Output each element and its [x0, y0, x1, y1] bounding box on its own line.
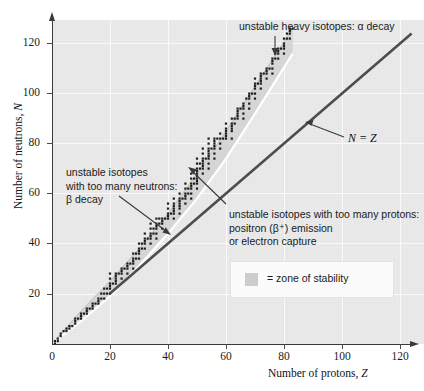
- x-ticklabel-120: 120: [380, 350, 420, 362]
- x-axis-title-symbol: Z: [361, 367, 367, 379]
- legend-swatch-zone-of-stability: [245, 273, 258, 286]
- x-tick-80: [284, 344, 285, 349]
- y-axis-title: Number of neutrons, N: [12, 76, 24, 236]
- y-tick-40: [47, 243, 52, 244]
- y-tick-100: [47, 93, 52, 94]
- y-ticklabel-40: 40: [0, 236, 40, 248]
- annotation-beta-line1: unstable isotopes: [66, 166, 177, 180]
- y-axis-title-symbol: N: [12, 103, 24, 111]
- annotation-beta-line2: with too many neutrons:: [66, 180, 177, 194]
- figure-root: 120 100 80 60 40 20 0 20 40 60 80 100 12…: [0, 0, 424, 391]
- x-tick-120: [400, 344, 401, 349]
- annotation-beta-line3: β decay: [66, 193, 177, 207]
- annotation-proton-line3: or electron capture: [229, 235, 419, 249]
- annotation-beta-decay: unstable isotopes with too many neutrons…: [66, 166, 177, 207]
- annotation-proton-rich: unstable isotopes with too many protons:…: [229, 208, 419, 249]
- x-tick-60: [226, 344, 227, 349]
- x-tick-20: [110, 344, 111, 349]
- x-ticklabel-20: 20: [90, 350, 130, 362]
- x-ticklabel-40: 40: [148, 350, 188, 362]
- y-ticklabel-20: 20: [0, 287, 40, 299]
- annotation-alpha-decay: unstable heavy isotopes: α decay: [239, 20, 395, 34]
- x-axis-arrow: [410, 341, 419, 347]
- y-tick-60: [47, 193, 52, 194]
- y-axis-arrow: [49, 12, 55, 21]
- chart-overlay: [0, 0, 424, 391]
- x-axis-title-text: Number of protons,: [268, 367, 361, 379]
- legend: = zone of stability: [230, 261, 394, 298]
- y-axis-line: [52, 20, 53, 344]
- x-ticklabel-60: 60: [206, 350, 246, 362]
- x-tick-40: [168, 344, 169, 349]
- y-axis-title-text: Number of neutrons,: [12, 111, 24, 209]
- y-ticklabel-120: 120: [0, 36, 40, 48]
- annotation-proton-line1: unstable isotopes with too many protons:: [229, 208, 419, 222]
- y-tick-80: [47, 143, 52, 144]
- y-tick-20: [47, 294, 52, 295]
- x-axis-line: [52, 344, 412, 345]
- nz-leader-line: [310, 124, 344, 137]
- y-tick-120: [47, 43, 52, 44]
- n-equals-z-label: N = Z: [348, 131, 377, 146]
- x-axis-title: Number of protons, Z: [268, 367, 368, 379]
- annotation-proton-line2: positron (β⁺) emission: [229, 222, 419, 236]
- legend-label-zone-of-stability: = zone of stability: [267, 272, 348, 284]
- x-ticklabel-0: 0: [32, 350, 72, 362]
- x-ticklabel-100: 100: [322, 350, 362, 362]
- x-tick-100: [342, 344, 343, 349]
- x-ticklabel-80: 80: [264, 350, 304, 362]
